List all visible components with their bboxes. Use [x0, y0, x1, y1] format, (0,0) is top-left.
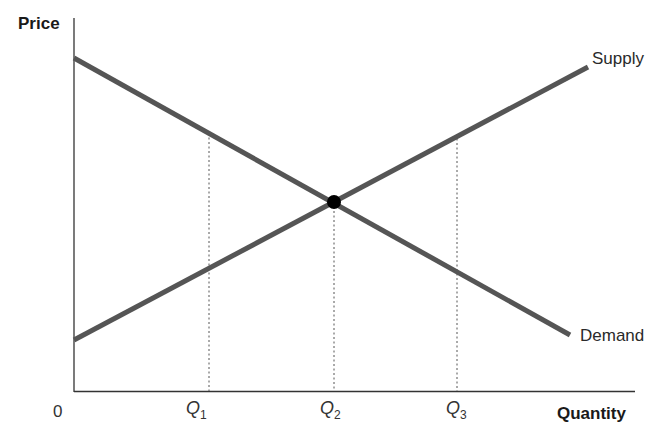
tick-base: Q	[446, 398, 460, 418]
tick-base: Q	[320, 398, 334, 418]
x-axis-label: Quantity	[557, 404, 626, 424]
equilibrium-point	[327, 195, 341, 209]
tick-subscript: 3	[460, 408, 467, 422]
supply-label: Supply	[592, 49, 644, 69]
x-tick-q3: Q3	[446, 398, 467, 422]
demand-curve	[74, 58, 570, 335]
y-axis-label: Price	[18, 14, 60, 34]
tick-base: Q	[186, 398, 200, 418]
origin-label: 0	[53, 402, 62, 422]
tick-subscript: 1	[200, 408, 207, 422]
x-tick-q2: Q2	[320, 398, 341, 422]
demand-label: Demand	[580, 326, 644, 346]
x-tick-q1: Q1	[186, 398, 207, 422]
tick-subscript: 2	[334, 408, 341, 422]
supply-demand-diagram	[0, 0, 667, 443]
